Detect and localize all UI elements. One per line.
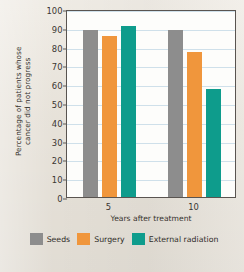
legend-swatch-external-radiation — [132, 233, 145, 245]
plot-area: 0102030405060708090100 — [66, 10, 236, 198]
bar-surgery — [102, 36, 117, 197]
bar-surgery — [187, 52, 202, 197]
legend-label-surgery: Surgery — [94, 235, 125, 244]
legend-swatch-seeds — [30, 233, 43, 245]
legend-item-surgery: Surgery — [77, 233, 125, 245]
y-axis-tick-label: 30 — [52, 138, 63, 148]
y-axis-tick-mark — [63, 161, 67, 162]
x-axis-tick-label: 10 — [188, 202, 199, 212]
y-axis-tick-mark — [63, 123, 67, 124]
bar-external-radiation — [206, 89, 221, 197]
legend-item-seeds: Seeds — [30, 233, 71, 245]
y-axis-tick-mark — [63, 180, 67, 181]
y-axis-tick-label: 60 — [52, 81, 63, 91]
y-axis-tick-mark — [63, 11, 67, 12]
x-axis-title: Years after treatment — [66, 214, 236, 223]
legend-label-external-radiation: External radiation — [149, 235, 219, 244]
y-axis-tick-label: 10 — [52, 175, 63, 185]
bar-group — [67, 11, 152, 197]
y-axis-tick-mark — [63, 86, 67, 87]
bar-external-radiation — [121, 26, 136, 197]
chart-legend: SeedsSurgeryExternal radiation — [10, 233, 238, 245]
bar-seeds — [83, 30, 98, 197]
bar-chart-figure: Percentage of patients whose cancer did … — [0, 0, 244, 272]
y-axis-tick-label: 40 — [52, 119, 63, 129]
y-axis-tick-label: 80 — [52, 44, 63, 54]
y-axis-title-line1: Percentage of patients whose — [14, 47, 23, 157]
y-axis-tick-label: 100 — [47, 6, 63, 16]
y-axis-tick-mark — [63, 142, 67, 143]
y-axis-tick-label: 70 — [52, 62, 63, 72]
y-axis-title-line2: cancer did not progress — [23, 16, 32, 186]
legend-swatch-surgery — [77, 233, 90, 245]
y-axis-tick-label: 20 — [52, 156, 63, 166]
y-axis-tick-label: 90 — [52, 25, 63, 35]
legend-item-external-radiation: External radiation — [132, 233, 219, 245]
y-axis-tick-label: 50 — [52, 100, 63, 110]
bar-seeds — [168, 30, 183, 197]
y-axis-tick-mark — [63, 67, 67, 68]
bar-group — [152, 11, 235, 197]
y-axis-tick-mark — [63, 29, 67, 30]
legend-label-seeds: Seeds — [47, 235, 71, 244]
y-axis-tick-mark — [63, 105, 67, 106]
y-axis-title: Percentage of patients whose cancer did … — [14, 16, 33, 186]
y-axis-tick-label: 0 — [57, 194, 62, 204]
y-axis-tick-mark — [63, 199, 67, 200]
y-axis-tick-mark — [63, 48, 67, 49]
plot-inner — [67, 11, 235, 197]
x-axis-tick-label: 5 — [106, 202, 111, 212]
